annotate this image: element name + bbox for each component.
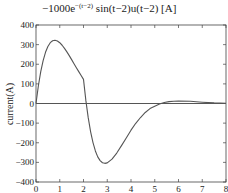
y-tick-label: −100 — [15, 118, 34, 128]
y-tick-label: −200 — [15, 138, 34, 148]
x-tick-label: 2 — [81, 184, 86, 193]
x-tick-label: 0 — [34, 184, 39, 193]
y-tick-label: 200 — [21, 59, 35, 69]
x-tick-label: 3 — [105, 184, 110, 193]
plot-series — [36, 40, 226, 163]
x-tick-label: 6 — [176, 184, 181, 193]
x-tick-label: 7 — [200, 184, 205, 193]
y-axis-label: current(A) — [4, 83, 16, 125]
y-tick-label: 300 — [21, 40, 35, 50]
y-tick-label: −300 — [15, 157, 34, 167]
line-chart: 0123456784003002001000−100−200−300−400 c… — [0, 0, 228, 193]
y-tick-label: −400 — [15, 177, 34, 187]
series-current — [36, 40, 226, 163]
y-tick-label: 0 — [30, 99, 35, 109]
x-tick-label: 1 — [58, 184, 63, 193]
x-tick-label: 8 — [224, 184, 228, 193]
y-tick-label: 400 — [21, 20, 35, 30]
x-tick-label: 4 — [129, 184, 134, 193]
axis-ticks: 0123456784003002001000−100−200−300−400 — [15, 20, 228, 193]
x-tick-label: 5 — [153, 184, 158, 193]
y-tick-label: 100 — [21, 79, 35, 89]
